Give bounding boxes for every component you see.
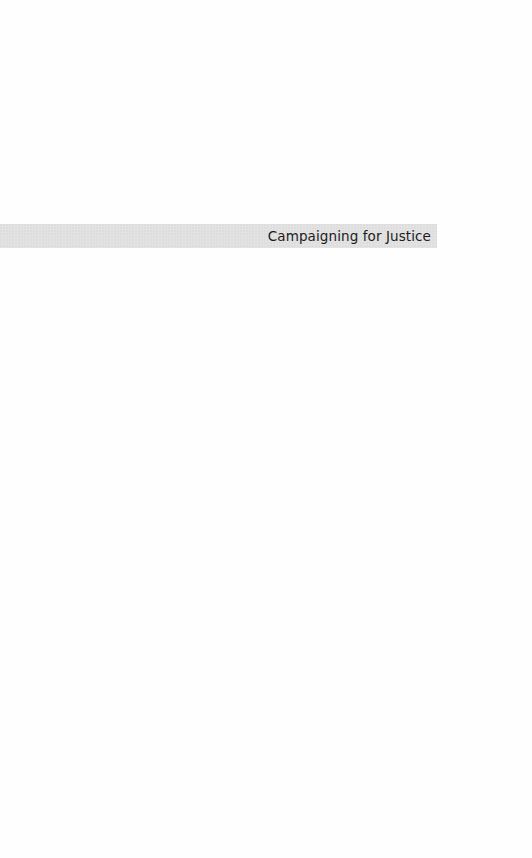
book-page: Campaigning for Justice: [0, 0, 532, 858]
half-title-band: Campaigning for Justice: [0, 224, 437, 248]
half-title-text: Campaigning for Justice: [268, 229, 431, 244]
